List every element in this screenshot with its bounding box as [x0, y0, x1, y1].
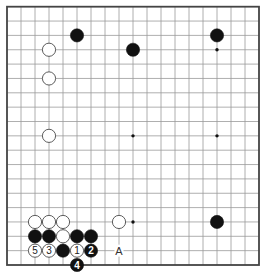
move-number: 3 — [46, 245, 52, 256]
star-point — [131, 134, 134, 137]
black-stone-icon — [70, 230, 83, 243]
white-stone — [56, 230, 69, 243]
black-stone — [28, 230, 41, 243]
black-stone — [42, 230, 55, 243]
black-stone-icon — [84, 230, 97, 243]
move-number: 5 — [32, 245, 38, 256]
black-stone — [56, 244, 69, 257]
black-stone-icon — [28, 230, 41, 243]
black-stone — [70, 29, 83, 42]
go-board: 53124 A — [0, 0, 264, 273]
white-stone-icon — [56, 215, 69, 228]
white-stone-icon — [56, 230, 69, 243]
star-point — [215, 48, 218, 51]
black-stone — [84, 230, 97, 243]
black-stone — [126, 43, 139, 56]
white-stone-icon — [42, 129, 55, 142]
white-stone — [42, 215, 55, 228]
point-label: A — [115, 245, 123, 257]
move-number: 4 — [74, 260, 80, 271]
white-stone-icon — [42, 43, 55, 56]
move-number: 2 — [88, 245, 94, 256]
black-stone-icon — [210, 215, 223, 228]
star-point — [215, 134, 218, 137]
white-stone-5: 5 — [28, 244, 41, 257]
white-stone — [56, 215, 69, 228]
move-number: 1 — [74, 245, 80, 256]
star-point — [131, 220, 134, 223]
white-stone-icon — [42, 215, 55, 228]
black-stone-icon — [56, 244, 69, 257]
white-stone-icon — [42, 72, 55, 85]
black-stone-icon — [126, 43, 139, 56]
black-stone-icon — [42, 230, 55, 243]
black-stone — [70, 230, 83, 243]
white-stone — [42, 129, 55, 142]
black-stone-4: 4 — [70, 258, 83, 271]
white-stone — [28, 215, 41, 228]
white-stone — [112, 215, 125, 228]
white-stone — [42, 72, 55, 85]
white-stone-icon — [112, 215, 125, 228]
black-stone — [210, 29, 223, 42]
black-stone-2: 2 — [84, 244, 97, 257]
white-stone — [42, 43, 55, 56]
markers-layer: A — [115, 245, 124, 257]
white-stone-icon — [28, 215, 41, 228]
black-stone — [210, 215, 223, 228]
black-stone-icon — [70, 29, 83, 42]
white-stone-1: 1 — [70, 244, 83, 257]
white-stone-3: 3 — [42, 244, 55, 257]
black-stone-icon — [210, 29, 223, 42]
